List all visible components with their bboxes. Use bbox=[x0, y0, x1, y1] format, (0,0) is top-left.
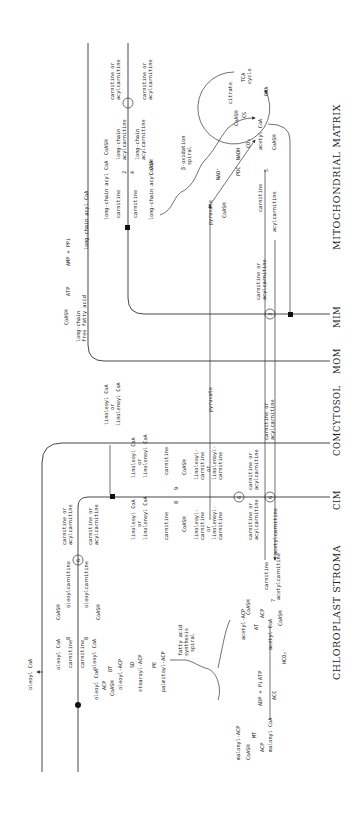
cp-adp-pi: ADP + Pi bbox=[257, 681, 263, 706]
cp-coash-8: CoASH bbox=[181, 516, 187, 532]
nad: NAD⁺ bbox=[215, 168, 221, 181]
cp-oleoyl-acp: oleoyl-ACP bbox=[117, 659, 124, 690]
mito-carnitine-2: carnitine bbox=[132, 190, 138, 218]
citrate: citrate bbox=[227, 82, 233, 104]
cp-enzyme-8c: 8 bbox=[83, 637, 89, 640]
black-square-mim bbox=[125, 225, 130, 230]
cp-enzyme-8b: 8 bbox=[65, 637, 71, 640]
cp-oleoylcarn-1: oleoylcarnitine bbox=[65, 561, 72, 608]
cp-oleoyl-coa-2: oleoyl CoA bbox=[91, 638, 98, 670]
carnitine-5: carnitine bbox=[257, 184, 263, 212]
cp-enzyme-9: 9 bbox=[173, 487, 179, 490]
label-mim: MIM bbox=[332, 306, 342, 328]
fas-spiral bbox=[170, 660, 219, 700]
cp-acetyl-coa: acetyl CoA bbox=[267, 618, 274, 650]
cp-linoleoyl-in2-1: linoleoyl CoA bbox=[130, 499, 137, 540]
enzyme-3: 3 bbox=[267, 313, 273, 316]
mito-atp: ATP bbox=[65, 287, 71, 296]
mito-amp-ppi: AMP + PPi bbox=[65, 238, 71, 266]
pyruvate-mito: pyruvate bbox=[207, 200, 214, 225]
co2: CO₂ bbox=[245, 139, 251, 148]
cp-oleoyl-coa-out: oleoyl CoA bbox=[27, 658, 34, 690]
cp-coash-7: CoASH bbox=[277, 610, 283, 626]
cp-acp: ACP bbox=[101, 681, 107, 690]
cp-coash-o2: CoASH bbox=[95, 604, 101, 620]
cp-coash-9: CoASH bbox=[181, 459, 187, 475]
mito-lc-acylcarn-out-2: acylcarnitine bbox=[121, 119, 128, 160]
mito-enzyme-2: 2 bbox=[121, 171, 127, 174]
pyruvate-cytosol: pyruvate bbox=[207, 387, 214, 412]
cp-sd: SD bbox=[129, 662, 135, 668]
mito-coash-1: CoASH bbox=[103, 139, 109, 155]
black-dot-cim bbox=[75, 702, 81, 708]
cp-malonyl-acp: malonyl-ACP bbox=[235, 726, 242, 760]
cp-linoleoyl-in2-2: linolenoyl CoA bbox=[142, 495, 149, 540]
cp-oleoyl-coa-3: oleoyl CoA bbox=[93, 668, 100, 700]
cp-carn-acyl-6b-2: acylcarnitine bbox=[253, 499, 260, 540]
acetyl-coa-mito: acetyl CoA bbox=[257, 118, 264, 150]
mito-lc-ffa-2: free fatty acid bbox=[81, 295, 88, 342]
cp-linoleoyl-in-1: linoleoyl CoA bbox=[130, 437, 137, 478]
cp-pe: PE bbox=[151, 662, 157, 668]
cp-coash-mt: CoASH bbox=[245, 744, 251, 760]
mito-lc-acyl-coa-1: long-chain acyl CoA bbox=[103, 160, 110, 220]
oaa: OAA bbox=[263, 86, 269, 96]
cp-at: AT bbox=[253, 624, 259, 630]
cp-carnitine-o1: carnitine bbox=[67, 640, 73, 668]
cp-mt: MT bbox=[251, 732, 257, 738]
cp-carn-acyl-6c-2: acylcarnitine bbox=[269, 399, 276, 440]
black-square-cim bbox=[110, 494, 115, 499]
mito-coash-ffa: CoASH bbox=[63, 309, 69, 325]
mito-carn-acyl-in-2: acylcarnitine bbox=[147, 59, 154, 100]
label-cim: CIM bbox=[332, 490, 342, 510]
cp-coash-o1: CoASH bbox=[55, 604, 61, 620]
cyto-linoleoyl-2: linolenoyl CoA bbox=[115, 381, 122, 426]
cp-hco3: HCO₃⁻ bbox=[281, 648, 287, 664]
cp-oleoyl-coa-1: oleoyl CoA bbox=[55, 638, 62, 670]
cp-malonyl-coa: malonyl CoA bbox=[267, 717, 274, 752]
cp-coash-at: CoASH bbox=[245, 599, 251, 615]
tca-label-2: cycle bbox=[246, 68, 253, 84]
cp-ot: OT bbox=[107, 666, 113, 672]
cp-enzyme-8: 8 bbox=[173, 501, 179, 504]
mito-carnitine-1: carnitine bbox=[115, 190, 121, 218]
label-cytosol: CYTOSOL bbox=[332, 385, 342, 432]
cp-carn-acyl-left-2: acylcarnitine bbox=[67, 504, 74, 545]
cp-acc: ACC bbox=[271, 691, 277, 700]
fas-spiral-3: spiral bbox=[189, 633, 196, 652]
label-mitochondrial-matrix: MITOCHONDRIAL MATRIX bbox=[331, 104, 342, 250]
cp-enzyme-6-top: 6 bbox=[236, 496, 242, 499]
coash-pdc: CoASH bbox=[221, 202, 227, 218]
cp-lincarn1-d: carnitine bbox=[217, 452, 223, 480]
cp-lincarn2-d: carnitine bbox=[217, 512, 223, 540]
mito-lc-acyl-coa-3: long-chain acyl CoA bbox=[83, 190, 90, 250]
mito-lc-acyl-coa-2: long-chain acyl CoA bbox=[148, 160, 155, 220]
cp-atp: ATP bbox=[257, 671, 263, 680]
cp-enzyme-6-cim: 6 bbox=[267, 496, 273, 499]
carn-acyl-mim-2: acylcarnitine bbox=[261, 259, 268, 300]
mito-lc-acylcarn-in-2: acylcarnitine bbox=[140, 119, 147, 160]
cs-enzyme: CS bbox=[241, 112, 247, 118]
label-mom: MOM bbox=[332, 348, 342, 374]
acylcarnitine-5: acylcarnitine bbox=[271, 191, 278, 232]
cp-palmitoyl-acp: palmitoyl-ACP bbox=[160, 651, 167, 692]
cp-acp-mt: ACP bbox=[259, 743, 265, 752]
pdc: PDC bbox=[235, 167, 241, 176]
cp-coash-ot: CoASH bbox=[109, 680, 115, 696]
enzyme-5: 5 bbox=[263, 169, 269, 172]
cp-carn-acyl-left2-2: acylcarnitine bbox=[93, 504, 100, 545]
label-chloroplast-stroma: CHLOROPLAST STROMA bbox=[331, 545, 342, 680]
pathway-figure: MITOCHONDRIAL MATRIX MIM MOM CYTOSOL COM… bbox=[0, 0, 364, 836]
cp-enzyme-6-left: 6 bbox=[75, 559, 81, 562]
cp-linoleoyl-in-2: linolenoyl CoA bbox=[142, 433, 149, 478]
cp-acp-at: ACP bbox=[259, 609, 265, 618]
nadh: NADH bbox=[235, 148, 241, 161]
mito-enzyme-4: 4 bbox=[129, 171, 135, 174]
cp-carnitine-8: carnitine bbox=[163, 512, 169, 540]
cp-carnitine-9: carnitine bbox=[163, 447, 169, 475]
beta-oxidation-2: spiral bbox=[186, 146, 193, 165]
cp-oleoylcarn-2: oleoylcarnitine bbox=[83, 561, 90, 608]
mito-carn-acyl-out-2: acylcarnitine bbox=[115, 59, 122, 100]
cp-carn-acyl-6a-2: acylcarnitine bbox=[253, 449, 260, 490]
label-com: COM bbox=[332, 432, 342, 456]
